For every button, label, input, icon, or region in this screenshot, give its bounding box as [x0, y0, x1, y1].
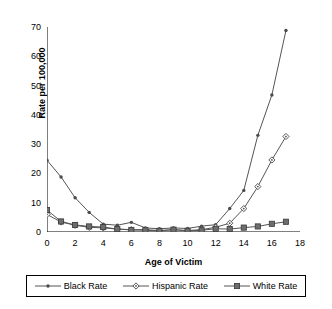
- x-tick-label: 8: [149, 239, 169, 248]
- x-tick-label: 12: [206, 239, 226, 248]
- series-black-rate: [47, 29, 288, 231]
- y-tick-label: 70: [15, 23, 41, 32]
- legend-item-white-rate[interactable]: White Rate: [224, 281, 298, 291]
- y-tick-label: 40: [15, 111, 41, 120]
- y-tick-label: 50: [15, 82, 41, 91]
- legend-label: Black Rate: [64, 281, 108, 291]
- chart-figure: Rate per 100,000 Age of Victim 010203040…: [0, 0, 332, 309]
- x-tick-label: 14: [234, 239, 254, 248]
- legend-label: White Rate: [253, 281, 298, 291]
- x-tick-label: 18: [290, 239, 310, 248]
- series-hispanic-rate: [47, 133, 289, 232]
- x-tick-label: 10: [178, 239, 198, 248]
- y-tick-label: 30: [15, 140, 41, 149]
- filled-square-marker-icon: [224, 281, 250, 291]
- x-tick-label: 16: [262, 239, 282, 248]
- chart-svg: [47, 27, 300, 232]
- legend-item-hispanic-rate[interactable]: Hispanic Rate: [123, 281, 208, 291]
- axis-lines: [47, 27, 300, 232]
- dot-marker-icon: [35, 281, 61, 291]
- open-diamond-marker-icon: [123, 281, 149, 291]
- chart-legend: Black RateHispanic RateWhite Rate: [26, 275, 306, 297]
- legend-label: Hispanic Rate: [152, 281, 208, 291]
- x-tick-label: 0: [37, 239, 57, 248]
- plot-area: [47, 27, 300, 232]
- y-tick-label: 20: [15, 169, 41, 178]
- x-axis-title: Age of Victim: [47, 257, 300, 267]
- x-tick-label: 4: [93, 239, 113, 248]
- x-tick-label: 2: [65, 239, 85, 248]
- x-tick-label: 6: [121, 239, 141, 248]
- y-tick-label: 0: [15, 228, 41, 237]
- legend-item-black-rate[interactable]: Black Rate: [35, 281, 108, 291]
- y-tick-label: 10: [15, 199, 41, 208]
- y-tick-label: 60: [15, 52, 41, 61]
